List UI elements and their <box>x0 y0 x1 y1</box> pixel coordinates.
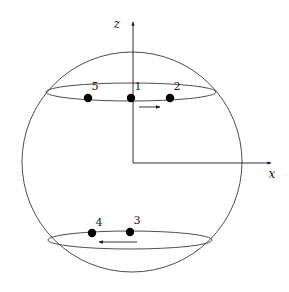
point-label-1: 1 <box>135 80 142 93</box>
point-label-3: 3 <box>134 214 141 227</box>
x-axis-label: x <box>269 167 276 181</box>
point-marker-3[interactable] <box>126 228 134 236</box>
point-label-5: 5 <box>92 80 99 93</box>
point-label-2: 2 <box>174 80 181 93</box>
point-marker-1[interactable] <box>127 94 135 102</box>
sphere-outline <box>22 52 242 272</box>
z-axis-label: z <box>113 17 121 31</box>
point-marker-2[interactable] <box>166 94 174 102</box>
point-label-4: 4 <box>96 216 103 229</box>
figure-canvas: z x 5 1 2 4 3 <box>0 0 289 292</box>
physics-diagram: z x 5 1 2 4 3 <box>0 0 289 292</box>
point-marker-5[interactable] <box>84 94 92 102</box>
point-marker-4[interactable] <box>88 229 96 237</box>
